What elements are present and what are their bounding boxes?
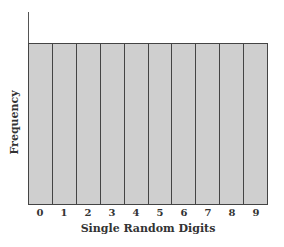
- x-tick-label: 8: [220, 207, 244, 218]
- bar-digit-4: [125, 43, 149, 205]
- x-axis-ticks: 0123456789: [28, 207, 268, 218]
- x-axis-label: Single Random Digits: [28, 222, 268, 235]
- bar-digit-6: [172, 43, 196, 205]
- x-tick-label: 6: [172, 207, 196, 218]
- histogram-chart: Frequency 0123456789 Single Random Digit…: [0, 0, 284, 247]
- bar-digit-2: [77, 43, 101, 205]
- bar-digit-9: [244, 43, 268, 205]
- bar-group: [28, 12, 268, 205]
- bar-digit-8: [220, 43, 244, 205]
- x-tick-label: 1: [52, 207, 76, 218]
- x-tick-label: 5: [148, 207, 172, 218]
- x-tick-label: 0: [28, 207, 52, 218]
- y-axis-label: Frequency: [8, 95, 21, 155]
- bar-digit-1: [53, 43, 77, 205]
- bar-digit-5: [149, 43, 173, 205]
- bar-digit-7: [196, 43, 220, 205]
- bar-digit-0: [28, 43, 53, 205]
- x-tick-label: 4: [124, 207, 148, 218]
- x-tick-label: 9: [244, 207, 268, 218]
- bar-digit-3: [101, 43, 125, 205]
- x-tick-label: 3: [100, 207, 124, 218]
- x-tick-label: 7: [196, 207, 220, 218]
- x-tick-label: 2: [76, 207, 100, 218]
